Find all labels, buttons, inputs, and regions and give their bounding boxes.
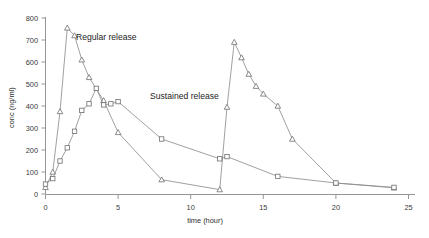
data-point bbox=[80, 108, 84, 112]
data-point bbox=[224, 104, 230, 109]
y-tick-label: 200 bbox=[26, 146, 38, 155]
data-point bbox=[94, 86, 98, 90]
data-point bbox=[87, 102, 91, 106]
concentration-time-plot: 0100200300400500600700800 conc (ng/ml) 0… bbox=[0, 0, 429, 238]
y-tick-group bbox=[42, 18, 46, 194]
y-tick-label-group: 0100200300400500600700800 bbox=[26, 14, 38, 199]
series-line bbox=[46, 88, 394, 187]
data-point bbox=[392, 185, 396, 189]
data-point bbox=[43, 182, 47, 186]
y-axis-group: 0100200300400500600700800 conc (ng/ml) bbox=[7, 14, 46, 199]
x-axis-group: 0510152025 time (hour) bbox=[43, 195, 415, 226]
x-tick-label: 25 bbox=[404, 203, 412, 212]
data-point bbox=[218, 157, 222, 161]
y-tick-label: 0 bbox=[34, 190, 38, 199]
data-point bbox=[290, 136, 296, 141]
data-point bbox=[72, 129, 76, 133]
y-tick-label: 400 bbox=[26, 102, 38, 111]
data-point bbox=[246, 71, 252, 76]
series-label-1: Regular release bbox=[76, 32, 137, 42]
data-point bbox=[116, 99, 120, 103]
x-tick-group bbox=[46, 195, 409, 200]
x-tick-label: 10 bbox=[187, 203, 195, 212]
y-axis-title: conc (ng/ml) bbox=[7, 87, 16, 128]
y-tick-label: 300 bbox=[26, 124, 38, 133]
chart-container: 0100200300400500600700800 conc (ng/ml) 0… bbox=[0, 0, 429, 238]
series-line bbox=[46, 28, 394, 190]
data-point bbox=[159, 137, 163, 141]
series-layer bbox=[43, 25, 397, 192]
series-2 bbox=[43, 86, 396, 189]
data-point bbox=[334, 181, 338, 185]
series-label-2: Sustained release bbox=[150, 91, 219, 101]
x-tick-label: 5 bbox=[116, 203, 120, 212]
y-tick-label: 600 bbox=[26, 58, 38, 67]
data-point bbox=[276, 174, 280, 178]
data-point bbox=[101, 103, 105, 107]
data-point bbox=[79, 57, 85, 62]
x-tick-label-group: 0510152025 bbox=[43, 203, 412, 212]
x-tick-label: 0 bbox=[43, 203, 47, 212]
y-tick-label: 100 bbox=[26, 168, 38, 177]
data-point bbox=[253, 83, 259, 88]
data-point bbox=[115, 130, 121, 135]
y-tick-label: 800 bbox=[26, 14, 38, 23]
x-axis-title: time (hour) bbox=[187, 216, 223, 225]
data-point bbox=[65, 146, 69, 150]
x-tick-label: 15 bbox=[259, 203, 267, 212]
data-point bbox=[109, 102, 113, 106]
data-point bbox=[57, 109, 63, 114]
x-tick-label: 20 bbox=[332, 203, 340, 212]
y-tick-label: 700 bbox=[26, 36, 38, 45]
data-point bbox=[58, 159, 62, 163]
y-tick-label: 500 bbox=[26, 80, 38, 89]
data-point bbox=[86, 75, 92, 80]
data-point bbox=[239, 55, 245, 60]
data-point bbox=[231, 39, 237, 44]
data-point bbox=[225, 154, 229, 158]
data-point bbox=[64, 25, 70, 30]
data-point bbox=[51, 176, 55, 180]
series-1 bbox=[43, 25, 397, 192]
